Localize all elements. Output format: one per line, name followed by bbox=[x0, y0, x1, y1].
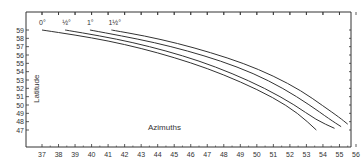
x-tick-label: 48 bbox=[220, 151, 228, 158]
x-tick-label: 56 bbox=[352, 151, 360, 158]
x-axis-title: Azimuths bbox=[148, 123, 181, 132]
curve-label: 1° bbox=[87, 19, 94, 26]
y-tick-label: 55 bbox=[16, 60, 24, 67]
x-tick-label: 37 bbox=[38, 151, 46, 158]
x-tick-label: 52 bbox=[286, 151, 294, 158]
y-tick-label: 51 bbox=[16, 93, 24, 100]
y-tick-label: 48 bbox=[16, 118, 24, 125]
x-tick-label: 51 bbox=[269, 151, 277, 158]
chart: 3738394041424344454647484950515253545556… bbox=[0, 0, 364, 163]
y-tick-label: 56 bbox=[16, 52, 24, 59]
y-axis: 47484950515253545556575859 bbox=[16, 27, 351, 134]
curve-label: 0° bbox=[39, 19, 46, 26]
x-tick-label: 50 bbox=[253, 151, 261, 158]
x-tick-label: 47 bbox=[203, 151, 211, 158]
x-tick-label: 39 bbox=[71, 151, 79, 158]
y-tick-label: 57 bbox=[16, 43, 24, 50]
y-tick-label: 53 bbox=[16, 77, 24, 84]
plot-frame bbox=[26, 12, 351, 147]
x-tick-label: 45 bbox=[170, 151, 178, 158]
y-tick-label: 50 bbox=[16, 102, 24, 109]
curve-line bbox=[90, 30, 341, 127]
curves: 0°½°1°1½° bbox=[39, 19, 348, 130]
y-tick-label: 59 bbox=[16, 27, 24, 34]
y-tick-label: 54 bbox=[16, 68, 24, 75]
x-tick-label: 41 bbox=[104, 151, 112, 158]
y-tick-label: 47 bbox=[16, 127, 24, 134]
x-tick-label: 42 bbox=[121, 151, 129, 158]
plot-border bbox=[26, 12, 351, 147]
curve-label: ½° bbox=[62, 19, 71, 26]
x-tick-label: 44 bbox=[154, 151, 162, 158]
y-tick-label: 58 bbox=[16, 35, 24, 42]
curve-line bbox=[42, 30, 316, 130]
x-tick-label: 40 bbox=[88, 151, 96, 158]
x-tick-label: 49 bbox=[236, 151, 244, 158]
curve-label: 1½° bbox=[108, 19, 121, 26]
y-axis-title: Latitude bbox=[32, 74, 41, 103]
curve-line bbox=[65, 30, 334, 128]
x-tick-label: 38 bbox=[55, 151, 63, 158]
x-tick-label: 43 bbox=[137, 151, 145, 158]
x-tick-label: 54 bbox=[319, 151, 327, 158]
x-tick-label: 53 bbox=[303, 151, 311, 158]
x-tick-label: 46 bbox=[187, 151, 195, 158]
y-tick-label: 49 bbox=[16, 110, 24, 117]
y-tick-label: 52 bbox=[16, 85, 24, 92]
x-tick-label: 55 bbox=[336, 151, 344, 158]
